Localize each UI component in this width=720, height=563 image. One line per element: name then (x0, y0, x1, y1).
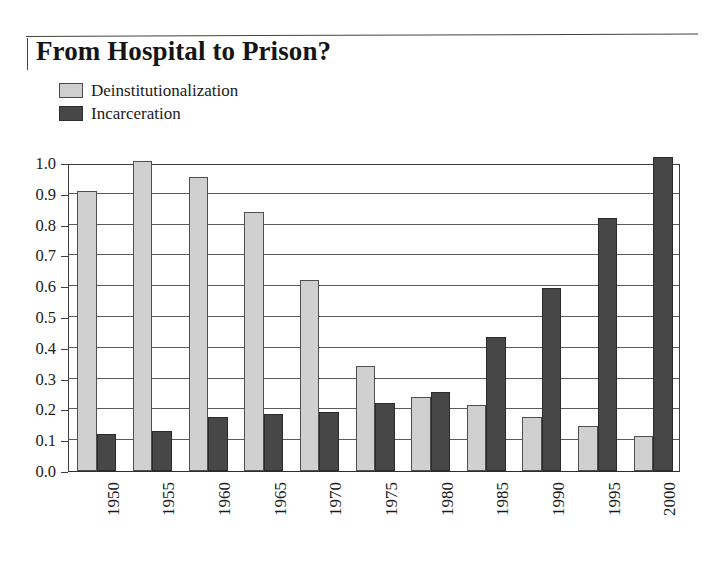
bar-deinstitutionalization-1995 (578, 426, 598, 471)
x-axis-tick-label: 1960 (215, 482, 235, 516)
y-axis-tick-mark (61, 226, 68, 227)
x-axis-tick-label: 1950 (104, 482, 124, 516)
legend-item-deinstitutionalization: Deinstitutionalization (59, 79, 238, 102)
bar-deinstitutionalization-1955 (133, 161, 153, 471)
bar-incarceration-2000 (653, 157, 673, 471)
y-axis-tick-label: 0.8 (35, 216, 56, 236)
bar-deinstitutionalization-1950 (77, 191, 97, 471)
bar-group (244, 165, 283, 471)
x-axis-tick-label: 1965 (271, 482, 291, 516)
bar-groups (69, 165, 679, 471)
bar-deinstitutionalization-1990 (522, 417, 542, 471)
y-axis-tick-label: 1.0 (35, 154, 56, 174)
y-axis-tick-label: 0.3 (35, 370, 56, 390)
x-axis-tick-label: 1955 (159, 482, 179, 516)
y-axis-tick-label: 0.0 (35, 462, 56, 482)
legend-swatch-dark-icon (59, 106, 83, 121)
bar-deinstitutionalization-2000 (634, 436, 654, 471)
bar-incarceration-1980 (431, 392, 451, 471)
x-axis-tick-label: 1975 (382, 482, 402, 516)
y-axis-tick-label: 0.5 (35, 308, 56, 328)
bar-group (356, 165, 395, 471)
bar-incarceration-1960 (208, 417, 228, 471)
bar-group (411, 165, 450, 471)
y-axis-tick-mark (61, 256, 68, 257)
x-axis: 1950195519601965197019751980198519901995… (68, 472, 680, 563)
bar-group (300, 165, 339, 471)
bar-incarceration-1990 (542, 288, 562, 471)
bar-group (578, 165, 617, 471)
bar-incarceration-1950 (97, 434, 117, 471)
bar-deinstitutionalization-1975 (356, 366, 376, 471)
bar-incarceration-1975 (375, 403, 395, 471)
legend-swatch-light-icon (59, 83, 83, 98)
y-axis-tick-mark (61, 472, 68, 473)
y-axis-tick-mark (61, 287, 68, 288)
x-axis-tick-label: 1985 (493, 482, 513, 516)
x-axis-tick-label: 1990 (549, 482, 569, 516)
y-axis-tick-mark (61, 441, 68, 442)
y-axis-tick-mark (61, 380, 68, 381)
plot-area (68, 164, 680, 472)
bar-deinstitutionalization-1970 (300, 280, 320, 471)
bar-incarceration-1985 (486, 337, 506, 471)
y-axis-tick-mark (61, 195, 68, 196)
y-axis-tick-label: 0.7 (35, 246, 56, 266)
x-axis-tick-label: 2000 (660, 482, 680, 516)
y-axis-tick-mark (61, 318, 68, 319)
x-axis-tick-label: 1980 (438, 482, 458, 516)
bar-group (133, 165, 172, 471)
bar-group (634, 165, 673, 471)
y-axis-tick-mark (61, 164, 68, 165)
bar-group (77, 165, 116, 471)
y-axis-tick-label: 0.2 (35, 400, 56, 420)
y-axis-tick-label: 0.6 (35, 277, 56, 297)
y-axis-tick-label: 0.9 (35, 185, 56, 205)
y-axis: 0.00.10.20.30.40.50.60.70.80.91.0 (0, 164, 68, 472)
bar-deinstitutionalization-1980 (411, 397, 431, 471)
bar-incarceration-1955 (152, 431, 172, 471)
chart-title: From Hospital to Prison? (36, 36, 331, 67)
bar-group (522, 165, 561, 471)
legend-item-incarceration: Incarceration (59, 102, 238, 125)
bar-deinstitutionalization-1965 (244, 212, 264, 471)
legend-label-deinstitutionalization: Deinstitutionalization (91, 81, 238, 101)
title-left-rule (27, 38, 28, 70)
chart-page: From Hospital to Prison? Deinstitutional… (0, 0, 720, 563)
bar-incarceration-1970 (319, 412, 339, 471)
bar-deinstitutionalization-1960 (189, 177, 209, 471)
x-axis-tick-label: 1995 (605, 482, 625, 516)
bar-group (189, 165, 228, 471)
bar-group (467, 165, 506, 471)
x-axis-tick-label: 1970 (326, 482, 346, 516)
bar-deinstitutionalization-1985 (467, 405, 487, 471)
y-axis-tick-mark (61, 410, 68, 411)
bar-incarceration-1995 (598, 218, 618, 471)
legend-label-incarceration: Incarceration (91, 104, 181, 124)
y-axis-tick-label: 0.4 (35, 339, 56, 359)
y-axis-tick-label: 0.1 (35, 431, 56, 451)
bar-incarceration-1965 (264, 414, 284, 471)
y-axis-tick-mark (61, 349, 68, 350)
chart-legend: Deinstitutionalization Incarceration (59, 79, 238, 125)
